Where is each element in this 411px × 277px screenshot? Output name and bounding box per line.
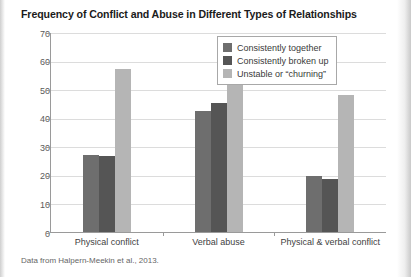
bar[interactable] — [211, 103, 227, 232]
x-axis-tick-mark — [163, 232, 164, 236]
source-note: Data from Halpern-Meekin et al., 2013. — [21, 256, 159, 265]
legend-swatch-icon — [223, 69, 232, 78]
y-axis: 010203040506070 — [5, 33, 50, 234]
chart-title: Frequency of Conflict and Abuse in Diffe… — [21, 8, 357, 20]
bar[interactable] — [306, 176, 322, 232]
x-axis-tick-label: Verbal abuse — [192, 237, 245, 247]
bar[interactable] — [195, 111, 211, 232]
bar-group: Physical conflict — [51, 33, 163, 232]
bar[interactable] — [99, 156, 115, 232]
legend-item[interactable]: Consistently broken up — [223, 54, 329, 67]
legend-swatch-icon — [223, 43, 232, 52]
y-axis-tick-mark — [46, 233, 50, 234]
x-axis-tick-mark — [274, 232, 275, 236]
bar[interactable] — [115, 69, 131, 232]
page-canvas: Frequency of Conflict and Abuse in Diffe… — [0, 0, 411, 277]
bar[interactable] — [338, 95, 354, 232]
bar[interactable] — [322, 179, 338, 232]
x-axis-tick-label: Physical conflict — [75, 237, 139, 247]
bar[interactable] — [83, 155, 99, 232]
chart-legend: Consistently togetherConsistently broken… — [217, 36, 337, 85]
legend-item[interactable]: Consistently together — [223, 41, 329, 54]
legend-label: Consistently together — [237, 43, 322, 53]
legend-item[interactable]: Unstable or “churning” — [223, 67, 329, 80]
legend-swatch-icon — [223, 56, 232, 65]
x-axis-tick-label: Physical & verbal conflict — [280, 237, 380, 247]
legend-label: Consistently broken up — [237, 56, 329, 66]
chart-figure: Frequency of Conflict and Abuse in Diffe… — [5, 0, 397, 277]
bar-cluster — [83, 33, 131, 232]
legend-label: Unstable or “churning” — [237, 69, 326, 79]
